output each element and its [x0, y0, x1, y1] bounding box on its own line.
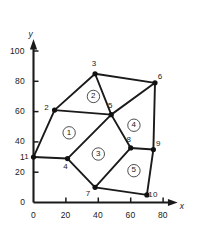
mesh-element-label-4: 4	[128, 121, 140, 129]
mesh-node-1	[31, 154, 36, 159]
mesh-edge-1-4	[34, 157, 68, 159]
mesh-node-label-2: 2	[44, 104, 49, 112]
mesh-node-label-9: 9	[156, 140, 161, 148]
mesh-node-label-1: 1	[24, 153, 29, 161]
mesh-edge-7-10	[95, 187, 147, 195]
mesh-edge-2-5	[55, 110, 112, 115]
mesh-edge-3-6	[95, 74, 155, 83]
mesh-edge-1-2	[34, 110, 55, 157]
mesh-edge-9-10	[147, 149, 153, 194]
mesh-node-2	[52, 107, 57, 112]
y-tick-label-100: 100	[10, 47, 25, 56]
mesh-node-4	[65, 156, 70, 161]
mesh-element-label-1: 1	[63, 129, 75, 137]
mesh-node-label-6: 6	[158, 73, 163, 81]
y-tick-label-80: 80	[15, 77, 25, 86]
mesh-element-label-3: 3	[92, 150, 104, 158]
mesh-node-label-7: 7	[86, 190, 91, 198]
mesh-node-5	[109, 112, 114, 117]
mesh-edge-8-9	[131, 148, 154, 150]
mesh-edge-6-9	[153, 83, 155, 150]
y-tick-label-40: 40	[15, 137, 25, 146]
mesh-element-label-5: 5	[128, 166, 140, 174]
x-tick-label-20: 20	[61, 211, 71, 220]
mesh-edge-4-7	[68, 159, 96, 188]
mesh-element-label-2: 2	[87, 92, 99, 100]
mesh-node-3	[92, 71, 97, 76]
mesh-node-label-5: 5	[108, 102, 113, 110]
y-tick-label-0: 0	[20, 198, 25, 207]
mesh-node-label-4: 4	[63, 163, 68, 171]
x-tick-label-80: 80	[158, 211, 168, 220]
x-axis-name: x	[180, 202, 184, 211]
mesh-node-label-3: 3	[92, 60, 97, 68]
y-axis-arrow	[30, 39, 37, 50]
mesh-node-label-8: 8	[126, 136, 131, 144]
x-axis-arrow	[168, 199, 178, 206]
y-axis-name: y	[29, 30, 33, 39]
y-tick-label-20: 20	[15, 168, 25, 177]
x-tick-label-40: 40	[93, 211, 103, 220]
y-tick-label-60: 60	[15, 107, 25, 116]
x-tick-label-0: 0	[31, 211, 36, 220]
mesh-node-8	[128, 145, 133, 150]
mesh-node-label-10: 10	[148, 191, 157, 199]
mesh-edge-5-6	[111, 83, 155, 115]
x-tick-label-60: 60	[126, 211, 136, 220]
mesh-node-7	[92, 185, 97, 190]
mesh-figure: 0201406080100020406080yx1234567891012345	[0, 0, 197, 228]
